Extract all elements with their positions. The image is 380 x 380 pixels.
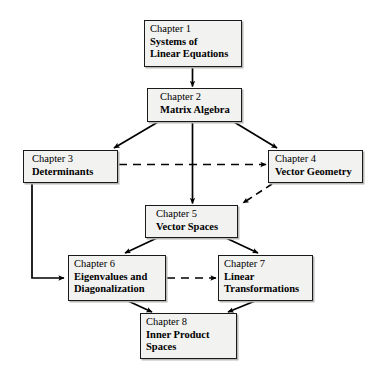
- node-chapter-1-label: Chapter 1: [150, 23, 237, 36]
- node-chapter-1-title-line-1: Systems of: [150, 36, 237, 49]
- node-chapter-4-title-line-1: Vector Geometry: [275, 166, 358, 179]
- node-chapter-7[interactable]: Chapter 7 Linear Transformations: [218, 255, 313, 301]
- node-chapter-2[interactable]: Chapter 2 Matrix Algebra: [147, 88, 242, 122]
- node-chapter-4[interactable]: Chapter 4 Vector Geometry: [268, 150, 363, 183]
- node-chapter-8-title-line-2: Spaces: [146, 341, 232, 354]
- chapter-dependency-diagram: Chapter 1 Systems of Linear Equations Ch…: [0, 0, 380, 380]
- edge-chapter5-to-chapter7: [226, 238, 258, 253]
- node-chapter-6[interactable]: Chapter 6 Eigenvalues and Diagonalizatio…: [68, 255, 166, 301]
- edge-chapter2-to-chapter4: [234, 122, 277, 148]
- node-chapter-8[interactable]: Chapter 8 Inner Product Spaces: [140, 313, 237, 359]
- edge-chapter3-to-chapter6: [32, 183, 64, 278]
- node-chapter-5-label: Chapter 5: [156, 208, 233, 221]
- edge-chapter2-to-chapter3: [114, 122, 158, 148]
- node-chapter-3[interactable]: Chapter 3 Determinants: [23, 150, 118, 183]
- node-chapter-6-title-line-2: Diagonalization: [74, 283, 161, 296]
- node-chapter-3-title-line-1: Determinants: [32, 166, 113, 179]
- node-chapter-6-title-line-1: Eigenvalues and: [74, 271, 161, 284]
- node-chapter-2-title-line-1: Matrix Algebra: [160, 104, 237, 117]
- node-chapter-7-title-line-1: Linear: [224, 271, 308, 284]
- node-chapter-3-label: Chapter 3: [32, 153, 113, 166]
- node-chapter-8-title-line-1: Inner Product: [146, 329, 232, 342]
- node-chapter-7-title-line-2: Transformations: [224, 283, 308, 296]
- node-chapter-1[interactable]: Chapter 1 Systems of Linear Equations: [144, 20, 242, 67]
- edge-chapter5-to-chapter6: [125, 238, 157, 253]
- edge-chapter7-to-chapter8: [228, 301, 255, 312]
- node-chapter-1-title-line-2: Linear Equations: [150, 48, 237, 61]
- node-chapter-2-label: Chapter 2: [160, 91, 237, 104]
- node-chapter-4-label: Chapter 4: [275, 153, 358, 166]
- node-chapter-5[interactable]: Chapter 5 Vector Spaces: [145, 205, 238, 238]
- node-chapter-7-label: Chapter 7: [224, 258, 308, 271]
- node-chapter-8-label: Chapter 8: [146, 316, 232, 329]
- node-chapter-6-label: Chapter 6: [74, 258, 161, 271]
- node-chapter-5-title-line-1: Vector Spaces: [156, 221, 233, 234]
- edge-chapter6-to-chapter8: [128, 301, 152, 312]
- edge-chapter4-to-chapter5: [243, 184, 272, 203]
